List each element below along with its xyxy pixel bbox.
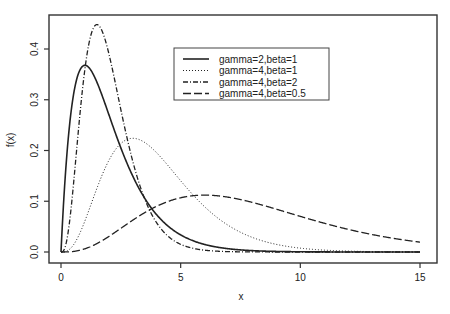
legend-label: gamma=4,beta=0.5 [219,88,306,99]
y-tick-label: 0.0 [29,245,40,259]
legend-label: gamma=4,beta=1 [219,65,298,76]
x-tick-label: 10 [295,272,307,283]
x-tick-label: 15 [414,272,426,283]
y-tick-label: 0.1 [29,194,40,208]
x-axis-title: x [239,291,244,302]
legend-label: gamma=4,beta=2 [219,77,298,88]
x-axis: 051015 [58,263,426,283]
legend: gamma=2,beta=1gamma=4,beta=1gamma=4,beta… [174,48,329,100]
y-tick-label: 0.3 [29,92,40,106]
y-tick-label: 0.2 [29,143,40,157]
legend-label: gamma=2,beta=1 [219,54,298,65]
gamma-density-chart: 051015 0.00.10.20.30.4 x f(x) gamma=2,be… [0,0,450,314]
curve-dotted [61,138,420,252]
curve-long-dash [61,195,420,252]
y-axis-title: f(x) [5,133,16,147]
y-tick-label: 0.4 [29,42,40,56]
x-tick-label: 5 [178,272,184,283]
x-tick-label: 0 [58,272,64,283]
y-axis: 0.00.10.20.30.4 [29,42,49,259]
